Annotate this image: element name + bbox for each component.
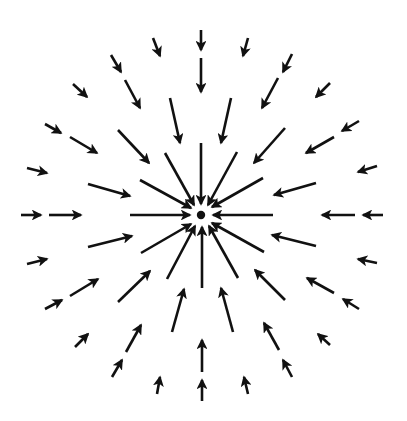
field-arrow — [73, 84, 87, 97]
field-arrow — [88, 236, 132, 247]
field-arrow — [170, 98, 180, 143]
field-arrow — [157, 377, 160, 394]
field-arrow — [27, 168, 47, 173]
field-arrow — [153, 38, 160, 56]
field-arrow — [307, 278, 334, 293]
field-arrow — [167, 226, 195, 279]
field-arrow — [274, 183, 316, 195]
field-arrow — [316, 83, 330, 97]
field-arrow — [221, 288, 233, 332]
field-arrow — [306, 137, 334, 153]
field-arrow — [343, 299, 359, 309]
point-charge-dot — [197, 211, 205, 219]
field-arrow — [283, 360, 292, 377]
field-arrow — [244, 377, 248, 394]
field-arrow — [70, 137, 97, 153]
field-arrow — [243, 38, 248, 56]
vector-field-diagram — [0, 0, 407, 421]
field-arrow — [342, 121, 359, 131]
field-arrow — [118, 271, 150, 302]
field-arrow — [358, 166, 377, 172]
field-arrow — [221, 98, 231, 143]
field-arrow — [27, 259, 47, 264]
field-arrow — [262, 78, 278, 108]
field-arrow — [45, 300, 62, 309]
field-arrow — [75, 334, 88, 347]
field-arrow — [264, 323, 279, 350]
field-arrow — [208, 152, 237, 205]
field-arrow — [45, 124, 61, 133]
field-arrow — [283, 54, 292, 72]
field-arrow — [70, 279, 98, 296]
field-arrow — [318, 334, 330, 345]
field-arrow — [126, 325, 141, 352]
field-arrow — [255, 270, 285, 300]
field-arrow — [118, 130, 149, 163]
field-canvas — [0, 0, 407, 421]
field-arrow — [358, 259, 377, 263]
field-arrow — [125, 80, 140, 108]
field-arrow — [172, 289, 184, 332]
field-arrow — [112, 360, 122, 377]
field-arrow — [111, 55, 121, 72]
field-arrow — [272, 235, 316, 246]
field-arrow — [88, 184, 130, 196]
field-arrow — [254, 128, 285, 163]
